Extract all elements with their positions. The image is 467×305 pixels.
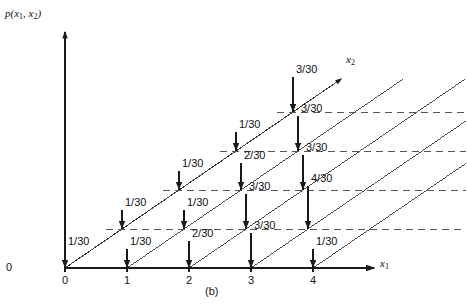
stem-lines-group	[65, 77, 313, 268]
stem-value-label-x1-3-x2-1: 4/30	[311, 173, 332, 184]
x1-tick-label-3: 3	[248, 275, 254, 286]
stem-value-label-x1-2-x2-0: 2/30	[192, 228, 213, 239]
axes-group	[65, 32, 374, 268]
stem-value-label-x1-2-x2-1: 3/30	[249, 181, 270, 192]
diagonal-line-x1-3	[251, 121, 466, 268]
stem-value-label-x1-0-x2-4: 3/30	[296, 64, 317, 75]
origin-label: 0	[6, 262, 12, 273]
stem-value-label-x1-0-x2-3: 1/30	[239, 119, 260, 130]
x1-tick-label-2: 2	[186, 275, 192, 286]
y-axis-label-text: p(x1, x2)	[5, 7, 41, 19]
x1-tick-label-1: 1	[124, 275, 130, 286]
stem-value-label-x1-3-x2-0: 3/30	[254, 220, 275, 231]
x1-tick-label-0: 0	[62, 275, 68, 286]
x2-axis-label-text: x2	[346, 53, 355, 65]
stem-value-label-x1-1-x2-0: 1/30	[130, 236, 151, 247]
stem-value-label-x1-0-x2-2: 1/30	[182, 158, 203, 169]
stem-value-label-x1-0-x2-0: 1/30	[68, 236, 89, 247]
figure-container: 1/301/302/303/301/301/301/303/304/301/30…	[0, 0, 467, 305]
x1-axis-label: x1	[380, 258, 389, 269]
stem-value-label-x1-1-x2-1: 1/30	[187, 197, 208, 208]
plot-canvas	[0, 0, 467, 305]
diagonal-line-x1-4	[313, 163, 466, 268]
figure-caption: (b)	[205, 286, 218, 297]
stem-value-label-x1-2-x2-2: 3/30	[306, 142, 327, 153]
dashed-level-lines-group	[106, 112, 466, 229]
y-axis-label: p(x1, x2)	[5, 8, 41, 19]
x1-tick-label-4: 4	[310, 275, 316, 286]
x1-axis-label-text: x1	[380, 257, 389, 269]
x2-axis	[65, 79, 341, 268]
x2-axis-label: x2	[346, 54, 355, 65]
diagonal-lines-group	[127, 79, 466, 268]
diagonal-line-x1-1	[127, 79, 403, 268]
stem-value-label-x1-0-x2-1: 1/30	[125, 197, 146, 208]
stem-value-label-x1-4-x2-0: 1/30	[316, 236, 337, 247]
stem-value-label-x1-1-x2-3: 3/30	[301, 103, 322, 114]
stem-value-label-x1-1-x2-2: 2/30	[244, 150, 265, 161]
